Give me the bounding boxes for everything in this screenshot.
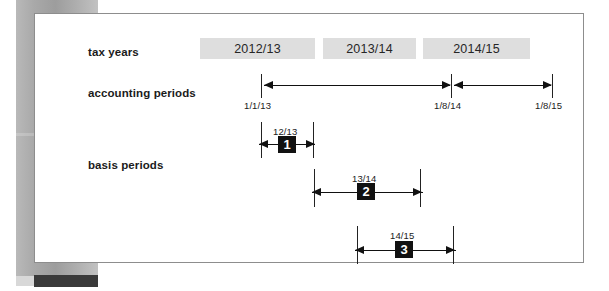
arrow-left-icon xyxy=(355,246,364,254)
arrow-right-icon xyxy=(306,140,315,148)
accounting-period-date-label: 1/8/15 xyxy=(535,100,562,111)
arrow-left-icon xyxy=(454,81,463,89)
arrow-right-icon xyxy=(543,81,552,89)
arrow-left-icon xyxy=(264,81,273,89)
row-label-tax-years: tax years xyxy=(88,46,139,58)
accounting-period-date-label: 1/8/14 xyxy=(434,100,461,111)
arrow-left-icon xyxy=(259,140,268,148)
accounting-period-tick xyxy=(552,74,553,98)
arrow-right-icon xyxy=(446,246,455,254)
scan-bottom-light-bar xyxy=(16,276,34,286)
arrow-right-icon xyxy=(442,81,451,89)
row-label-accounting-periods: accounting periods xyxy=(88,87,196,99)
tax-year-box: 2012/13 xyxy=(200,38,315,59)
tax-year-box: 2013/14 xyxy=(323,38,416,59)
accounting-period-date-label: 1/1/13 xyxy=(244,100,271,111)
accounting-period-span-line xyxy=(454,85,551,86)
accounting-period-tick xyxy=(261,74,262,98)
tax-year-box: 2014/15 xyxy=(423,38,530,59)
basis-period-number-badge: 1 xyxy=(278,136,296,153)
arrow-right-icon xyxy=(413,188,422,196)
basis-period-tick xyxy=(453,226,454,264)
diagram-card: tax years accounting periods basis perio… xyxy=(34,13,584,263)
basis-period-tick xyxy=(357,226,358,264)
accounting-period-span-line xyxy=(264,85,450,86)
basis-period-number-badge: 3 xyxy=(395,241,413,258)
row-label-basis-periods: basis periods xyxy=(88,159,163,171)
basis-period-year-label: 14/15 xyxy=(390,230,414,241)
scan-bottom-dark-bar xyxy=(34,275,98,287)
arrow-left-icon xyxy=(312,188,321,196)
basis-period-number-badge: 2 xyxy=(357,183,375,200)
accounting-period-tick xyxy=(451,74,452,98)
